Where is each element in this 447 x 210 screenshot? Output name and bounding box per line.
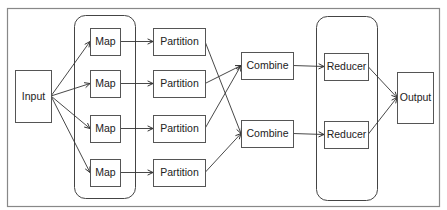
- map2-label: Map: [95, 77, 116, 89]
- part3-label: Partition: [160, 122, 199, 134]
- map3-label: Map: [95, 122, 116, 134]
- red2-label: Reducer: [327, 128, 367, 140]
- map4-label: Map: [95, 166, 116, 178]
- node-part4: Partition: [154, 160, 206, 187]
- node-part2: Partition: [154, 71, 206, 98]
- comb1-label: Combine: [246, 59, 288, 71]
- mapreduce-diagram: InputMapMapMapMapPartitionPartitionParti…: [0, 0, 447, 210]
- node-red2: Reducer: [325, 122, 369, 149]
- node-comb1: Combine: [242, 53, 294, 80]
- red1-label: Reducer: [327, 60, 367, 72]
- node-output: Output: [398, 73, 434, 124]
- node-input: Input: [16, 71, 52, 123]
- node-map1: Map: [91, 29, 121, 56]
- node-red1: Reducer: [325, 54, 369, 81]
- node-map3: Map: [91, 116, 121, 143]
- output-label: Output: [400, 91, 432, 103]
- part1-label: Partition: [160, 35, 199, 47]
- node-part3: Partition: [154, 116, 206, 143]
- part2-label: Partition: [160, 77, 199, 89]
- node-comb2: Combine: [242, 121, 294, 148]
- map1-label: Map: [95, 35, 116, 47]
- input-label: Input: [22, 90, 45, 102]
- node-map2: Map: [91, 71, 121, 98]
- comb2-label: Combine: [246, 127, 288, 139]
- node-map4: Map: [91, 160, 121, 187]
- node-part1: Partition: [154, 29, 206, 56]
- part4-label: Partition: [160, 166, 199, 178]
- diagram-frame: [8, 9, 440, 207]
